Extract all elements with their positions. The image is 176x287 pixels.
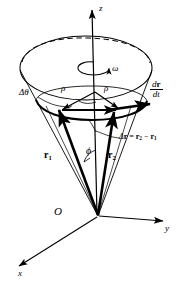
delta-theta-label: Δθ: [19, 88, 29, 97]
dashed-upper-circle: [22, 38, 150, 63]
omega-label: ω: [112, 64, 118, 73]
position-vector-r2: [98, 112, 114, 215]
minus-sign: −: [142, 132, 151, 141]
delta-theta-arc: [79, 101, 96, 103]
delta-r-equation-label: Δr = r2 − r1: [119, 133, 157, 142]
x-axis-label: x: [18, 269, 22, 278]
denominator-t: t: [157, 89, 160, 99]
physics-diagram-rotating-vector: z y x O ω Δθ ρ ρ ϕ r1 r2 Δr = r2 − r1 dr…: [0, 0, 176, 287]
velocity-derivative-label: dr dt: [150, 80, 163, 100]
delta-r-leader-arc: [96, 131, 120, 138]
diagram-canvas: [0, 0, 176, 287]
z-axis: [92, 10, 97, 214]
r2-label: r2: [108, 150, 116, 161]
origin-label: O: [54, 206, 62, 217]
z-axis-label: z: [99, 4, 103, 13]
equals-sign: =: [127, 132, 136, 141]
cone-left-slant-edge: [20, 70, 98, 216]
r1-label: r1: [44, 150, 52, 161]
phi-label: ϕ: [86, 146, 91, 156]
derivative-denominator: dt: [150, 89, 163, 99]
rho-label-left: ρ: [61, 84, 65, 93]
derivative-numerator: dr: [150, 80, 163, 89]
term2-subscript: 1: [154, 135, 157, 141]
position-vector-r1: [59, 110, 98, 215]
numerator-r-vector: r: [157, 79, 161, 89]
r2-subscript: 2: [112, 154, 115, 161]
x-axis: [19, 217, 97, 266]
y-axis: [99, 216, 163, 221]
rho-label-right: ρ: [104, 84, 108, 93]
y-axis-label: y: [165, 224, 169, 233]
r1-subscript: 1: [48, 154, 51, 161]
